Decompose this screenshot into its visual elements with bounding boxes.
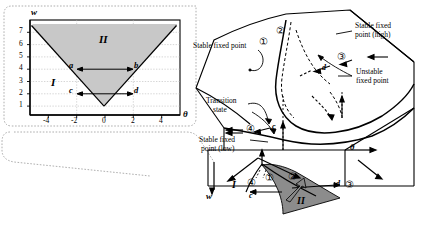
plane-theta-axis-label: θ [350,143,354,152]
inset-y-tick-5: 5 [19,52,23,60]
callout-transition-state-line1: Transition [206,97,237,105]
surface-marker-3: ③ [337,52,346,63]
inset-x-tick-minus2: -2 [71,117,77,125]
surface-marker-4: ④ [246,124,255,135]
inset-region-label-II: II [99,34,108,46]
plane-marker-3: ③ [345,180,354,191]
plane-region-label-I: I [232,180,236,191]
inset-x-tick-2: 2 [131,117,135,125]
surface-marker-1: ① [259,37,268,48]
plane-marker-1: ① [265,173,274,184]
callout-stable-fixed-point-high-line1: Stable fixed [355,22,391,30]
plane-w-axis-label: w [206,192,212,201]
inset-point-c: c [69,86,73,95]
inset-region-label-I: I [51,77,55,89]
callout-stable-fixed-point-high-line2: point (high) [355,31,391,39]
figure-root: w θ 1 2 3 4 5 6 7 -4 -2 0 2 4 I II a b c… [0,0,434,234]
plane-point-d: d [336,180,340,188]
inset-point-a: a [69,61,73,70]
surface-marker-2: ② [276,26,285,37]
surface-point-c: c [272,123,276,131]
callout-transition-state-line2: state [213,106,227,114]
plane-marker-2: ② [288,172,297,183]
inset-y-tick-4: 4 [19,64,23,72]
plane-region-label-II: II [297,196,305,207]
inset-x-tick-zero: 0 [102,117,106,125]
inset-y-tick-3: 3 [19,77,23,85]
inset-point-b: b [134,61,138,70]
inset-y-tick-2: 2 [19,89,23,97]
inset-y-tick-6: 6 [19,40,23,48]
callout-leaders [248,31,352,142]
plane-marker-4: ④ [247,178,256,189]
inset-point-d: d [134,86,138,95]
callout-unstable-fixed-point-line2: fixed point [356,77,389,85]
surface-hidden-fold [282,22,343,118]
callout-stable-fixed-point-low-line2: point (low) [201,145,235,153]
inset-y-tick-1: 1 [19,101,23,109]
inset-x-tick-minus4: -4 [43,117,49,125]
inset-x-axis-label: θ [183,110,188,119]
plane-point-c: c [249,192,253,200]
surface-point-d: d [322,64,326,72]
callout-stable-fixed-point: Stable fixed point [193,42,246,50]
callout-stable-fixed-point-low-line1: Stable fixed [199,136,235,144]
callout-unstable-fixed-point-line1: Unstable [356,68,383,76]
inset-x-tick-4: 4 [159,117,163,125]
inset-y-axis-label: w [31,8,37,17]
inset-y-tick-7: 7 [19,27,23,35]
